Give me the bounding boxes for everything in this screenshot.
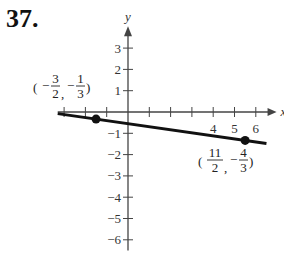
svg-text:−: − <box>230 152 237 167</box>
y-tick-label: −4 <box>107 190 121 205</box>
y-tick-label: 2 <box>115 62 122 77</box>
svg-text:3: 3 <box>52 71 59 86</box>
svg-text:(: ( <box>198 154 202 169</box>
svg-text:,: , <box>61 86 64 101</box>
x-tick-label: 4 <box>210 121 217 136</box>
x-axis-label: x <box>280 104 284 119</box>
y-tick-label: 3 <box>115 41 122 56</box>
svg-text:): ) <box>86 80 90 95</box>
svg-text:−: − <box>67 78 74 93</box>
svg-text:2: 2 <box>52 86 59 101</box>
data-point <box>92 115 101 124</box>
svg-text:(: ( <box>33 80 37 95</box>
y-axis-arrow-icon <box>124 26 132 36</box>
svg-text:−: − <box>42 78 49 93</box>
point-label-2: (112,−43) <box>198 145 253 175</box>
y-tick-label: −6 <box>107 232 121 247</box>
svg-text:,: , <box>224 160 227 175</box>
svg-text:11: 11 <box>209 145 222 160</box>
point-label-1: (−32,−13) <box>33 71 90 101</box>
svg-text:4: 4 <box>240 145 247 160</box>
x-tick-label: 6 <box>253 121 260 136</box>
coordinate-plot: xy456321−1−2−3−4−5−6(−32,−13)(112,−43) <box>0 0 284 265</box>
svg-text:3: 3 <box>77 86 84 101</box>
y-tick-label: −1 <box>107 126 121 141</box>
svg-text:1: 1 <box>77 71 84 86</box>
svg-text:3: 3 <box>240 160 247 175</box>
y-tick-label: −3 <box>107 168 121 183</box>
svg-text:2: 2 <box>212 160 219 175</box>
x-tick-label: 5 <box>231 121 238 136</box>
y-tick-label: 1 <box>115 83 122 98</box>
x-axis-arrow-icon <box>268 108 277 116</box>
y-axis-label: y <box>123 9 131 24</box>
svg-text:): ) <box>249 154 253 169</box>
y-tick-label: −5 <box>107 211 121 226</box>
y-tick-label: −2 <box>107 147 121 162</box>
data-point <box>241 136 250 145</box>
